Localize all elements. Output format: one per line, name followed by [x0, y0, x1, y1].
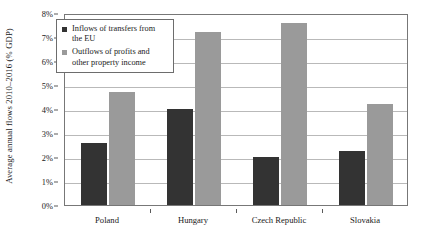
y-axis-tick-mark — [54, 110, 58, 111]
y-axis-tick-label: 1% — [42, 178, 53, 187]
y-axis-tick-label: 2% — [42, 154, 53, 163]
x-axis-tick-label: Poland — [95, 215, 119, 225]
legend-label-outflows-line1: Outflows of profits and — [72, 47, 150, 56]
y-axis-tick-label: 6% — [42, 58, 53, 67]
bar-inflow — [339, 151, 365, 205]
legend-item-outflows: Outflows of profits and other property i… — [62, 47, 168, 67]
x-axis-tick-label: Slovakia — [350, 215, 380, 225]
x-axis-tick-label: Hungary — [178, 215, 208, 225]
x-axis-tick-mark — [236, 209, 237, 213]
x-axis-tick-mark — [150, 209, 151, 213]
bar-outflow — [367, 104, 393, 205]
bar-outflow — [281, 23, 307, 205]
x-axis-tick-mark — [322, 209, 323, 213]
y-axis-tick-mark — [54, 158, 58, 159]
y-axis-tick-mark — [54, 182, 58, 183]
legend-label-outflows-line2: other property income — [72, 58, 146, 67]
y-axis-tick-labels: 0%1%2%3%4%5%6%7%8% — [18, 0, 58, 212]
y-axis-tick-label: 4% — [42, 106, 53, 115]
x-axis-tick-labels: PolandHungaryCzech RepublicSlovakia — [64, 209, 408, 233]
y-axis-tick-label: 7% — [42, 34, 53, 43]
y-axis-title: Average annual flows 2010–2016 (% GDP) — [0, 0, 18, 212]
legend-label-inflows: Inflows of transfers from the EU — [72, 24, 155, 44]
legend-swatch-outflows-icon — [62, 50, 67, 55]
bar-chart: Average annual flows 2010–2016 (% GDP) 0… — [0, 0, 422, 235]
legend-label-inflows-line2: the EU — [72, 34, 95, 43]
x-axis-tick-label: Czech Republic — [252, 215, 307, 225]
y-axis-tick-mark — [54, 134, 58, 135]
y-axis-tick-mark — [54, 86, 58, 87]
y-axis-tick-mark — [54, 206, 58, 207]
y-axis-tick-label: 8% — [42, 10, 53, 19]
y-axis-title-text: Average annual flows 2010–2016 (% GDP) — [4, 28, 14, 184]
chart-legend: Inflows of transfers from the EU Outflow… — [56, 19, 174, 73]
legend-swatch-inflows-icon — [62, 27, 67, 32]
legend-label-inflows-line1: Inflows of transfers from — [72, 24, 155, 33]
bar-outflow — [195, 32, 221, 205]
bar-inflow — [81, 143, 107, 205]
y-axis-tick-label: 5% — [42, 82, 53, 91]
bar-inflow — [253, 157, 279, 205]
y-axis-tick-mark — [54, 14, 58, 15]
y-axis-tick-label: 3% — [42, 130, 53, 139]
bar-inflow — [167, 109, 193, 205]
legend-label-outflows: Outflows of profits and other property i… — [72, 47, 150, 67]
bar-outflow — [109, 92, 135, 205]
y-axis-tick-label: 0% — [42, 202, 53, 211]
legend-item-inflows: Inflows of transfers from the EU — [62, 24, 168, 44]
